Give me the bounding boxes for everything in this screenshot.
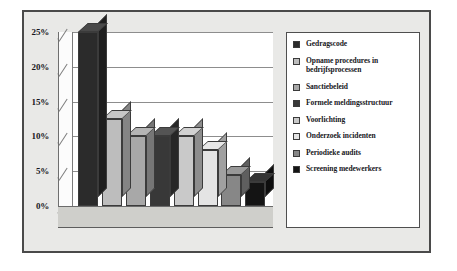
y-axis-tick-label: 10% (32, 131, 58, 141)
legend-item-label: Sanctiebeleid (306, 82, 348, 92)
y-axis-tick-label: 20% (32, 62, 58, 72)
chart-floor-front-edge (58, 227, 273, 228)
legend-item[interactable]: Formele meldingsstructuur (293, 98, 414, 108)
legend-item[interactable]: Voorlichting (293, 115, 414, 125)
legend-item-label: Formele meldingsstructuur (306, 98, 392, 108)
legend-color-swatch-icon (293, 133, 300, 140)
chart-side-wall (58, 32, 72, 206)
legend-color-swatch-icon (293, 150, 300, 157)
side-wall-gridline (59, 98, 68, 111)
legend-color-swatch-icon (293, 166, 300, 173)
side-wall-gridline (59, 63, 68, 76)
y-axis-tick-label: 15% (32, 97, 58, 107)
legend-item-label: Voorlichting (306, 115, 345, 125)
legend-item[interactable]: Onderzoek incidenten (293, 131, 414, 141)
side-wall-gridline (59, 133, 68, 146)
bar-front-face (78, 32, 98, 206)
legend-item-label: Gedragscode (306, 39, 347, 49)
bar-side-face (98, 14, 107, 197)
side-wall-gridline (59, 168, 68, 181)
legend-item[interactable]: Periodieke audits (293, 148, 414, 158)
y-axis-tick-label: 5% (36, 166, 58, 176)
chart-figure-background: 25%20%15%10%5%0% GedragscodeOpname proce… (24, 12, 429, 251)
legend-item-label: Screening medewerkers (306, 164, 381, 174)
chart-legend: GedragscodeOpname procedures in bedrijfs… (286, 32, 420, 228)
legend-item[interactable]: Opname procedures in bedrijfsprocessen (293, 56, 414, 75)
legend-item[interactable]: Sanctiebeleid (293, 82, 414, 92)
bar-series (72, 32, 273, 206)
side-wall-gridline (59, 29, 68, 42)
chart-figure-frame: 25%20%15%10%5%0% GedragscodeOpname proce… (22, 10, 431, 253)
y-axis-tick-label: 0% (36, 201, 58, 211)
legend-item-label: Onderzoek incidenten (306, 131, 376, 141)
legend-color-swatch-icon (293, 100, 300, 107)
legend-item-label: Opname procedures in bedrijfsprocessen (306, 56, 414, 75)
bar-column (78, 32, 98, 206)
legend-item[interactable]: Screening medewerkers (293, 164, 414, 174)
y-axis-tick-label: 25% (32, 27, 58, 37)
legend-item[interactable]: Gedragscode (293, 39, 414, 49)
legend-color-swatch-icon (293, 84, 300, 91)
legend-color-swatch-icon (293, 58, 300, 65)
legend-color-swatch-icon (293, 117, 300, 124)
legend-item-label: Periodieke audits (306, 148, 361, 158)
legend-color-swatch-icon (293, 41, 300, 48)
plot-area: 25%20%15%10%5%0% (58, 32, 273, 228)
chart-floor (58, 206, 273, 228)
